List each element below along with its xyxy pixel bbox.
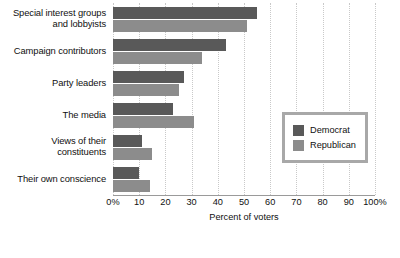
x-tick-label: 60 [265,197,275,207]
category-label: Views of theirconstituents [0,136,106,157]
plot-area [113,3,375,195]
x-tick-label: 20 [160,197,170,207]
x-tick-label: 40 [213,197,223,207]
category-label: Party leaders [0,78,106,89]
category-label: The media [0,110,106,121]
legend-item: Republican [293,138,356,152]
category-label-line: Their own conscience [0,174,106,185]
bar [113,148,152,160]
bar [113,167,139,179]
bar [113,135,142,147]
x-tick-label: 90 [344,197,354,207]
x-axis-line [113,195,375,196]
x-tick-label: 10 [134,197,144,207]
category-label-line: Campaign contributors [0,46,106,57]
x-tick-label: 30 [186,197,196,207]
x-tick-label: 50 [239,197,249,207]
bar [113,116,194,128]
bar [113,84,179,96]
legend-label: Republican [310,140,356,150]
bar-chart: Special interest groupsand lobbyistsCamp… [0,0,400,258]
category-label: Their own conscience [0,174,106,185]
x-tick-label: 0% [106,197,119,207]
bar [113,7,257,19]
gridline-100 [375,3,376,195]
bar [113,20,247,32]
legend-swatch [293,125,304,136]
category-label: Special interest groupsand lobbyists [0,8,106,29]
x-tick-label: 70 [291,197,301,207]
legend: DemocratRepublican [282,112,368,163]
bar [113,103,173,115]
bar [113,180,150,192]
bar [113,39,226,51]
x-tick-label: 100% [363,197,387,207]
x-axis-tick-labels: 0%102030405060708090100% [113,197,375,211]
category-label: Campaign contributors [0,46,106,57]
legend-label: Democrat [310,125,350,135]
category-label-line: The media [0,110,106,121]
category-label-line: Party leaders [0,78,106,89]
bars-layer [113,3,375,195]
x-axis-title: Percent of voters [113,212,375,222]
legend-swatch [293,140,304,151]
category-axis: Special interest groupsand lobbyistsCamp… [0,0,110,195]
category-label-line: constituents [0,147,106,158]
x-tick-label: 80 [317,197,327,207]
bar [113,71,184,83]
legend-item: Democrat [293,123,356,137]
category-label-line: and lobbyists [0,19,106,30]
bar [113,52,202,64]
